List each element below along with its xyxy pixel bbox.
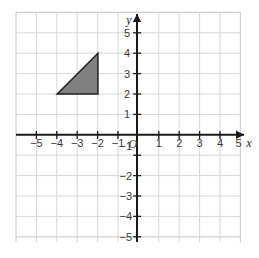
x-tick-label-pos2: 2 xyxy=(176,137,182,149)
y-tick-label-neg3: −3 xyxy=(119,190,132,202)
origin-label: O xyxy=(129,137,138,151)
x-tick-label-neg2: −2 xyxy=(91,137,104,149)
x-tick-label-pos4: 4 xyxy=(217,137,223,149)
y-tick-label-pos4: 4 xyxy=(124,47,130,59)
x-tick-label-neg4: −4 xyxy=(51,137,64,149)
x-tick-label-pos5: 5 xyxy=(235,137,241,149)
y-axis-name-label: y xyxy=(125,13,132,27)
x-tick-label-pos3: 3 xyxy=(197,137,203,149)
y-tick-label-pos1: 1 xyxy=(124,108,130,120)
y-tick-label-pos5: 5 xyxy=(124,27,130,39)
y-tick-label-pos3: 3 xyxy=(124,68,130,80)
y-tick-label-pos2: 2 xyxy=(124,88,130,100)
coordinate-plane-svg: −5 −4 −3 −2 −1 1 2 3 4 5 5 4 3 2 1 −1 −2… xyxy=(0,0,259,258)
x-tick-label-neg3: −3 xyxy=(71,137,84,149)
y-tick-label-neg4: −4 xyxy=(119,210,132,222)
y-tick-label-neg5: −5 xyxy=(119,231,132,243)
y-tick-label-neg2: −2 xyxy=(119,170,132,182)
x-axis-name-label: x xyxy=(245,136,252,150)
x-tick-label-neg5: −5 xyxy=(30,137,43,149)
coordinate-plane-figure: −5 −4 −3 −2 −1 1 2 3 4 5 5 4 3 2 1 −1 −2… xyxy=(0,0,259,258)
x-tick-label-pos1: 1 xyxy=(156,137,162,149)
